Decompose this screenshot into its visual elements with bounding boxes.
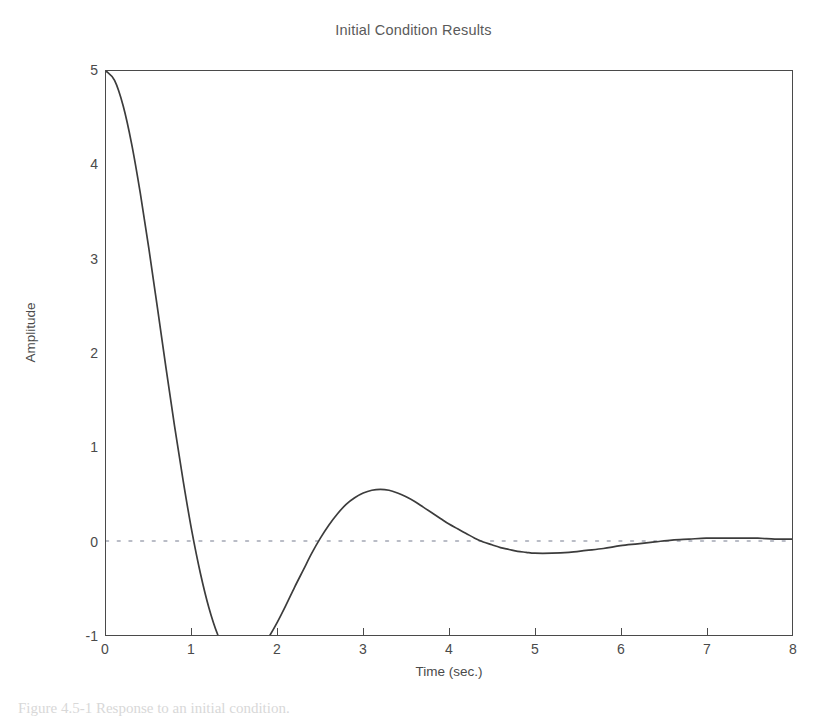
- x-tick-mark: [363, 628, 364, 636]
- x-tick-mark: [449, 628, 450, 636]
- x-tick-mark: [277, 628, 278, 636]
- x-tick-label: 1: [161, 641, 221, 657]
- x-tick-label: 0: [75, 641, 135, 657]
- x-axis-title: Time (sec.): [105, 664, 793, 679]
- figure-caption: Figure 4.5-1 Response to an initial cond…: [18, 700, 818, 717]
- figure-container: Initial Condition Results Amplitude -101…: [0, 0, 827, 717]
- y-tick-label: 1: [58, 439, 98, 455]
- y-tick-label: 2: [58, 345, 98, 361]
- x-tick-mark: [535, 628, 536, 636]
- x-tick-label: 8: [763, 641, 823, 657]
- y-tick-label: 3: [58, 251, 98, 267]
- y-axis-title: Amplitude: [23, 273, 38, 393]
- y-axis-tick-labels: -1012345: [52, 0, 98, 717]
- amplitude-response-line: [106, 71, 792, 635]
- x-tick-label: 7: [677, 641, 737, 657]
- y-tick-label: 5: [58, 62, 98, 78]
- response-curve-svg: [106, 71, 792, 635]
- y-tick-label: 4: [58, 156, 98, 172]
- x-tick-label: 2: [247, 641, 307, 657]
- x-tick-mark: [191, 628, 192, 636]
- chart-title: Initial Condition Results: [0, 22, 827, 38]
- x-tick-label: 5: [505, 641, 565, 657]
- x-tick-mark: [621, 628, 622, 636]
- x-tick-label: 3: [333, 641, 393, 657]
- plot-area: [105, 70, 793, 636]
- x-tick-mark: [707, 628, 708, 636]
- x-tick-label: 4: [419, 641, 479, 657]
- x-tick-label: 6: [591, 641, 651, 657]
- y-tick-label: 0: [58, 534, 98, 550]
